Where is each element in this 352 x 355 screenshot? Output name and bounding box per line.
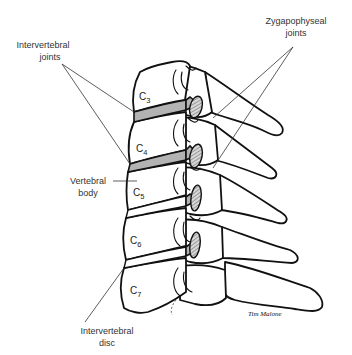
leader-intervertebral-disc — [85, 268, 124, 322]
leader-intervertebral-joint-c4c5 — [62, 64, 130, 164]
label-vertebral-body-line2: body — [78, 188, 98, 198]
label-intervertebral-joints-line2: joints — [38, 52, 61, 62]
spinous-process-c6 — [222, 227, 298, 263]
leader-intervertebral-joint-c3c4 — [62, 64, 134, 112]
label-zygapophyseal-joints-line2: joints — [284, 28, 307, 38]
spinous-process-c7 — [225, 262, 322, 311]
spinous-process-c5 — [220, 175, 287, 223]
artist-signature: Tim Malone — [248, 310, 282, 318]
cervical-spine-diagram: C3 C4 C5 C6 C7 Intervertebral joints Zyg… — [0, 0, 352, 355]
label-intervertebral-disc-line1: Intervertebral — [80, 326, 133, 336]
label-intervertebral-disc-line2: disc — [99, 338, 116, 348]
label-intervertebral-joints-line1: Intervertebral — [16, 40, 69, 50]
vertebral-bodies — [121, 61, 190, 313]
label-vertebral-body-line1: Vertebral — [70, 176, 106, 186]
label-zygapophyseal-joints-line1: Zygapophyseal — [265, 16, 326, 26]
